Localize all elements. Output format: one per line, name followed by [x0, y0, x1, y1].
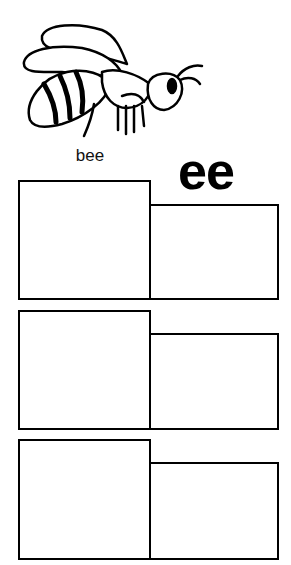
digraph-heading: ee	[178, 145, 234, 197]
writing-box-2[interactable]	[149, 333, 279, 430]
picture-box-1[interactable]	[18, 180, 151, 300]
word-label: bee	[60, 146, 120, 166]
writing-box-1[interactable]	[149, 204, 279, 300]
writing-box-3[interactable]	[149, 462, 279, 560]
picture-box-2[interactable]	[18, 310, 151, 430]
bee-icon	[22, 22, 204, 140]
picture-box-3[interactable]	[18, 439, 151, 560]
